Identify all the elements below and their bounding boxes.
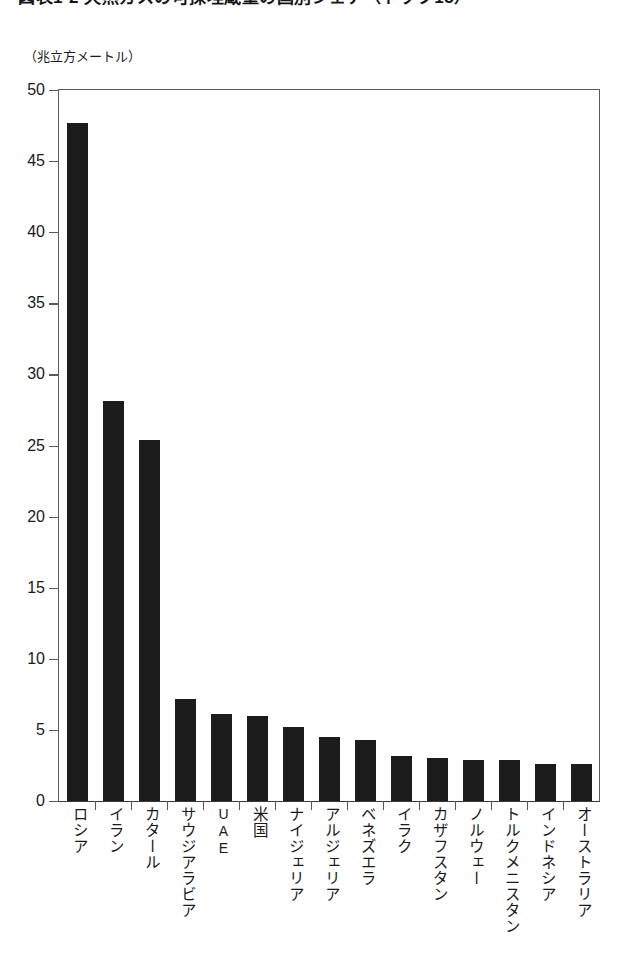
x-axis-category-label: サウジアラビア	[174, 806, 195, 918]
y-axis-tick	[49, 517, 59, 518]
x-axis-category-label: アルジェリア	[318, 806, 339, 902]
y-axis-tick-label: 45	[27, 153, 45, 169]
y-axis-unit-caption: （兆立方メートル）	[24, 46, 141, 65]
x-axis-category-label: オーストラリア	[570, 806, 591, 918]
x-axis-category-label: インドネシア	[534, 806, 555, 902]
x-axis-category-label: カタール	[138, 806, 159, 870]
y-axis-tick	[49, 303, 59, 304]
bar	[67, 123, 88, 801]
y-axis-tick	[49, 659, 59, 660]
x-axis-category-label: UAE	[210, 806, 231, 857]
bar	[355, 740, 376, 801]
y-axis-tick	[49, 161, 59, 162]
bar	[571, 764, 592, 801]
y-axis-tick-label: 35	[27, 295, 45, 311]
y-axis-tick-label: 50	[27, 82, 45, 98]
y-axis-tick-label: 15	[27, 580, 45, 596]
x-axis-category-label: カザフスタン	[426, 806, 447, 902]
x-axis-category-label: イラク	[390, 806, 411, 854]
bar	[103, 401, 124, 801]
x-axis-category-label: ノルウェー	[462, 806, 483, 886]
y-axis-tick-label: 25	[27, 438, 45, 454]
bar	[175, 699, 196, 801]
x-axis-category-label: イラン	[102, 806, 123, 854]
bar	[319, 737, 340, 801]
bar	[391, 756, 412, 802]
y-axis-tick	[49, 232, 59, 233]
x-axis-category-label: ロシア	[66, 806, 87, 854]
bar	[535, 764, 556, 801]
chart-plot-area: 05101520253035404550	[58, 89, 600, 802]
y-axis-tick	[49, 588, 59, 589]
x-axis-category-label: ベネズエラ	[354, 806, 375, 886]
x-axis-category-label: 米国	[246, 806, 267, 838]
y-axis-tick	[49, 446, 59, 447]
bar	[463, 760, 484, 801]
y-axis-tick-label: 0	[36, 793, 45, 809]
y-axis-tick	[49, 801, 59, 802]
y-axis-tick-label: 10	[27, 651, 45, 667]
y-axis-tick-label: 40	[27, 224, 45, 240]
y-axis-tick-label: 30	[27, 366, 45, 382]
y-axis-tick	[49, 730, 59, 731]
bar	[499, 760, 520, 801]
y-axis-tick-label: 5	[36, 722, 45, 738]
bar	[427, 758, 448, 801]
x-axis-category-label: トルクメニスタン	[498, 806, 519, 934]
figure-title-text: 図表1-2 天然ガスの可採埋蔵量の国別シェア（トップ15）	[18, 0, 472, 8]
x-axis-category-label: ナイジェリア	[282, 806, 303, 902]
bar	[247, 716, 268, 801]
bar	[283, 727, 304, 801]
x-axis-category-labels: ロシアイランカタールサウジアラビアUAE米国ナイジェリアアルジェリアベネズエライ…	[58, 806, 598, 953]
y-axis-tick	[49, 374, 59, 375]
y-axis-tick-label: 20	[27, 509, 45, 525]
bar	[211, 714, 232, 801]
figure-title-clipped: 図表1-2 天然ガスの可採埋蔵量の国別シェア（トップ15）	[0, 0, 627, 14]
y-axis-tick	[49, 90, 59, 91]
bar	[139, 440, 160, 801]
